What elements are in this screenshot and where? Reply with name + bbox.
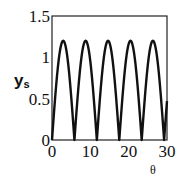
data-curve: [52, 41, 167, 140]
x-axis-label: θ: [150, 163, 156, 177]
x-tick-label: 0: [48, 142, 57, 161]
x-tick-label: 20: [120, 142, 137, 161]
y-tick-label: 1: [42, 48, 51, 67]
y-axis-label: ys: [14, 71, 30, 90]
y-tick-label: 0.5: [29, 90, 50, 109]
y-tick-labels: 00.511.5: [29, 7, 50, 150]
x-tick-labels: 0102030: [48, 142, 176, 161]
x-tick-label: 30: [159, 142, 176, 161]
chart: 00.511.5 0102030 ys θ: [0, 0, 187, 184]
y-tick-label: 1.5: [29, 7, 50, 26]
x-tick-label: 10: [82, 142, 99, 161]
